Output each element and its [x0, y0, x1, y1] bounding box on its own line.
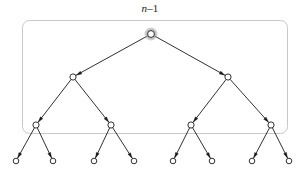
tree-edge	[254, 128, 270, 158]
edge-line	[230, 80, 268, 122]
tree-node	[108, 122, 114, 128]
tree-edge	[113, 128, 132, 158]
node-circle	[91, 158, 97, 164]
node-circle	[188, 122, 194, 128]
tree-edge	[193, 128, 210, 158]
tree-edge	[230, 80, 268, 122]
leaf-node	[91, 158, 97, 164]
node-circle	[108, 122, 114, 128]
node-circle	[209, 158, 215, 164]
edge-arrowhead	[219, 71, 225, 75]
node-circle	[131, 158, 137, 164]
root-node	[146, 29, 156, 39]
node-circle	[170, 158, 176, 164]
leaf-node	[50, 158, 56, 164]
node-circle	[249, 158, 255, 164]
leaf-node	[249, 158, 255, 164]
node-circle	[268, 122, 274, 128]
edge-line	[193, 80, 225, 122]
edge-line	[75, 80, 108, 122]
node-layer	[13, 29, 292, 164]
edge-arrowhead	[206, 153, 210, 159]
tree-node	[33, 122, 39, 128]
tree-edge	[38, 128, 52, 158]
tree-node	[225, 74, 231, 80]
edge-arrowhead	[128, 153, 132, 158]
node-circle	[13, 158, 19, 164]
edge-line	[154, 36, 224, 75]
tree-edge	[193, 80, 225, 122]
edge-arrowhead	[284, 152, 288, 158]
node-circle	[70, 74, 76, 80]
tree-node	[70, 74, 76, 80]
edge-arrowhead	[175, 152, 179, 158]
node-circle	[50, 158, 56, 164]
tree-edge	[154, 36, 224, 75]
tree-diagram-figure: n–1	[0, 0, 300, 172]
tree-node	[188, 122, 194, 128]
tree-canvas	[0, 0, 300, 172]
leaf-node	[286, 158, 292, 164]
leaf-node	[170, 158, 176, 164]
edge-arrowhead	[76, 71, 82, 75]
leaf-node	[13, 158, 19, 164]
edge-layer	[18, 36, 288, 158]
node-circle	[286, 158, 292, 164]
tree-edge	[175, 128, 190, 158]
node-circle	[225, 74, 231, 80]
edge-arrowhead	[48, 152, 52, 158]
leaf-node	[209, 158, 215, 164]
tree-edge	[38, 80, 70, 122]
node-circle	[148, 31, 155, 38]
leaf-node	[131, 158, 137, 164]
tree-edge	[95, 128, 109, 158]
node-circle	[33, 122, 39, 128]
edge-arrowhead	[18, 152, 22, 158]
tree-node	[268, 122, 274, 128]
tree-edge	[76, 36, 147, 75]
tree-edge	[273, 128, 288, 158]
edge-arrowhead	[95, 152, 99, 158]
edge-line	[76, 36, 147, 75]
edge-line	[38, 80, 70, 122]
tree-edge	[75, 80, 108, 122]
edge-arrowhead	[254, 152, 258, 158]
